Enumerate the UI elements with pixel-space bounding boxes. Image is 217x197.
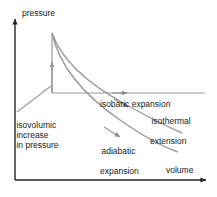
pv-diagram-figure: pressure volume isobaric expansion isoth… [0, 0, 217, 197]
adiabatic-expansion-label-line2: expansion [92, 166, 139, 176]
isovolumic-increase-label-line3: in pressure [16, 140, 58, 150]
adiabatic-expansion-label-line1: adiabatic [101, 146, 135, 156]
isovolumic-leader-line [17, 86, 51, 112]
x-axis-label: volume [166, 165, 193, 175]
isothermal-extension-label-line2: extension [142, 136, 191, 146]
isovolumic-increase-label-line1: isovolumic [16, 120, 56, 130]
adiabatic-expansion-label: adiabatic expansion [92, 136, 139, 196]
isothermal-extension-label: isothermal extension [142, 106, 191, 166]
isovolumic-increase-label: isovolumic increase in pressure [7, 110, 59, 160]
isothermal-extension-label-line1: isothermal [151, 116, 190, 126]
y-axis-label: pressure [22, 8, 55, 18]
isovolumic-increase-label-line2: increase [16, 130, 48, 140]
